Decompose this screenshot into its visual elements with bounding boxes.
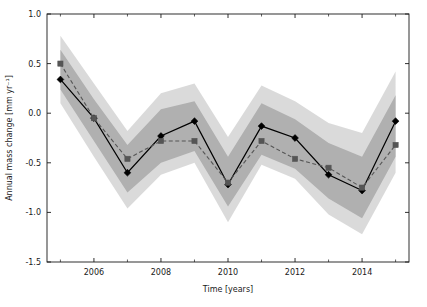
y-tick-label: -1.5 <box>25 258 41 267</box>
data-point-marker <box>125 156 130 161</box>
data-point-marker <box>158 138 163 143</box>
data-point-marker <box>91 116 96 121</box>
x-tick-label: 2008 <box>151 268 171 277</box>
data-point-marker <box>58 61 63 66</box>
data-point-marker <box>359 185 364 190</box>
figure-container: 20062008201020122014-1.5-1.0-0.50.00.51.… <box>0 0 427 307</box>
y-tick-label: 1.0 <box>28 10 41 19</box>
data-point-marker <box>259 138 264 143</box>
x-tick-label: 2012 <box>285 268 305 277</box>
data-point-marker <box>393 142 398 147</box>
chart-svg: 20062008201020122014-1.5-1.0-0.50.00.51.… <box>0 0 427 307</box>
x-tick-label: 2006 <box>84 268 104 277</box>
y-axis-label: Annual mass change [mm yr⁻¹] <box>5 75 14 201</box>
y-tick-label: -0.5 <box>25 159 41 168</box>
data-point-marker <box>326 165 331 170</box>
x-tick-label: 2010 <box>218 268 238 277</box>
y-tick-label: -1.0 <box>25 208 41 217</box>
y-tick-label: 0.5 <box>28 60 41 69</box>
y-tick-label: 0.0 <box>28 109 41 118</box>
data-point-marker <box>192 138 197 143</box>
x-axis-label: Time [years] <box>202 285 253 294</box>
x-tick-label: 2014 <box>352 268 372 277</box>
data-point-marker <box>292 156 297 161</box>
data-point-marker <box>225 180 230 185</box>
